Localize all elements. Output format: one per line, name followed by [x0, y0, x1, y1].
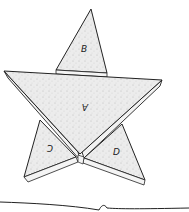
label-c: C [46, 143, 53, 153]
star-diagram: B A C D [0, 0, 189, 212]
flap-b [56, 9, 107, 77]
ground-line [0, 202, 189, 210]
star-drawing: B A C D [0, 0, 189, 212]
label-d: D [113, 147, 120, 157]
center-notch [78, 155, 84, 164]
body-a [4, 71, 162, 160]
label-a: A [82, 102, 89, 112]
label-b: B [81, 44, 87, 54]
